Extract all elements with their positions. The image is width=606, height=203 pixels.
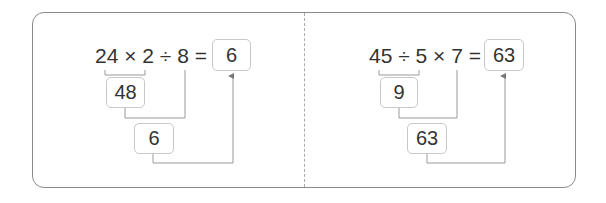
connector-lines (0, 0, 606, 203)
step1-box-right[interactable]: 9 (380, 77, 418, 108)
step2-box-right[interactable]: 63 (407, 123, 447, 154)
answer-box-right[interactable]: 63 (484, 39, 524, 71)
step1-box-left[interactable]: 48 (106, 77, 145, 108)
step2-box-left[interactable]: 6 (134, 123, 174, 154)
answer-box-left[interactable]: 6 (212, 39, 251, 71)
expression-right: 45 ÷ 5 × 7 = (369, 44, 481, 68)
expression-left: 24 × 2 ÷ 8 = (95, 44, 207, 68)
